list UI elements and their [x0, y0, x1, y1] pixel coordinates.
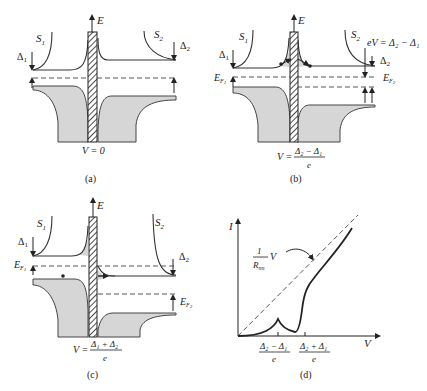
voltage-lhs-b: V = [277, 151, 292, 162]
ohmic-suffix: V [270, 251, 278, 262]
s2-label: S2 [351, 28, 361, 43]
delta1-label: Δ1 [17, 51, 27, 64]
voltage-den-b: e [307, 160, 311, 170]
caption-a: (a) [85, 173, 96, 185]
voltage-num-b: Δ₂ − Δ₁ [294, 146, 322, 156]
ev-label: eV = Δ₂ − Δ₁ [367, 37, 419, 48]
delta2-label: Δ2 [180, 40, 190, 53]
ohmic-num: 1 [257, 246, 262, 256]
caption-b: (b) [290, 173, 302, 185]
delta1-label: Δ1 [219, 49, 229, 62]
voltage-label-a: V = 0 [82, 145, 105, 156]
insulating-barrier [290, 32, 298, 142]
ohmic-den: Rnn [252, 260, 265, 271]
left-filled-states [33, 86, 88, 142]
panel-a: E S1 S2 Δ1 Δ2 V = 0 (a) [17, 14, 190, 185]
sis-tunneling-figure: E S1 S2 Δ1 Δ2 V = 0 (a) E S1 S2 [0, 0, 427, 391]
right-filled-states [297, 105, 375, 142]
x-axis-label: V [364, 337, 372, 349]
energy-axis-label: E [96, 14, 104, 26]
fermi-right-label: EF2 [382, 72, 396, 85]
tick2-num: Δ₂ + Δ₁ [299, 341, 327, 351]
tick2-den: e [312, 354, 316, 364]
tick1-num: Δ₂ − Δ₁ [259, 341, 287, 351]
right-filled-states [98, 313, 176, 337]
fermi-left-label: EF1 [213, 72, 226, 85]
s2-label: S2 [154, 28, 164, 43]
caption-d: (d) [300, 369, 312, 381]
s2-label: S2 [155, 216, 165, 231]
fermi-right-label: EF2 [179, 296, 193, 309]
insulating-barrier [89, 217, 97, 337]
insulating-barrier [88, 32, 97, 142]
y-axis-label: I [228, 220, 234, 232]
delta2-label: Δ2 [179, 251, 189, 264]
iv-curve [238, 228, 352, 336]
s1-label: S1 [36, 32, 45, 47]
panel-b: E S1 S2 Δ1 Δ2 eV = Δ₂ − Δ₁ EF1 EF2 V = Δ… [213, 14, 419, 185]
left-filled-states [33, 279, 88, 337]
delta2-label: Δ2 [380, 55, 390, 68]
caption-c: (c) [87, 369, 98, 381]
right-filled-states [98, 96, 176, 142]
voltage-den-c: e [103, 353, 107, 363]
s1-label: S1 [37, 217, 46, 232]
energy-axis-label: E [297, 14, 305, 26]
energy-axis-label: E [96, 199, 104, 211]
ohmic-line [238, 215, 358, 336]
left-filled-states [233, 87, 290, 142]
voltage-num-c: Δ₁ + Δ₂ [90, 339, 118, 349]
voltage-lhs-c: V = [73, 344, 88, 355]
fermi-left-label: EF1 [13, 259, 26, 272]
panel-d: I V 1 Rnn V Δ₂ − Δ₁ e Δ₂ + Δ₁ e (d) [228, 215, 378, 381]
tick1-den: e [272, 354, 276, 364]
panel-c: E S1 S2 Δ1 Δ2 EF1 EF2 V = Δ₁ + Δ₂ e (c) [13, 199, 193, 381]
delta1-label: Δ1 [18, 236, 28, 249]
s1-label: S1 [239, 30, 248, 45]
